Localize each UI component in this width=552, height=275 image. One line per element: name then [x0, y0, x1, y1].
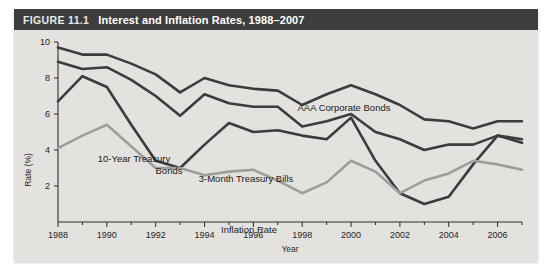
- figure-title-text: Interest and Inflation Rates, 1988–2007: [98, 14, 304, 26]
- series-annotation-0: AAA Corporate Bonds: [298, 102, 391, 113]
- series-line-10-year-treasury-bonds: [58, 62, 522, 150]
- x-tick-label: 2000: [341, 230, 361, 240]
- figure-root: FIGURE 11.1 Interest and Inflation Rates…: [0, 0, 552, 275]
- y-tick-label: 10: [40, 37, 50, 47]
- x-tick-label: 2006: [488, 230, 508, 240]
- figure-title-bar: FIGURE 11.1 Interest and Inflation Rates…: [14, 9, 538, 30]
- figure-number-label: FIGURE 11.1: [23, 14, 89, 26]
- x-axis-title: Year: [281, 244, 298, 254]
- series-annotation-2: Bonds: [156, 165, 183, 176]
- y-tick-label: 6: [45, 109, 50, 119]
- x-tick-label: 2004: [439, 230, 459, 240]
- x-axis-ticks: 1988199019921994199619982000200220042006: [48, 222, 522, 240]
- x-tick-label: 1988: [48, 230, 68, 240]
- x-tick-label: 1994: [195, 230, 215, 240]
- series-line-3-month-treasury-bills: [58, 76, 522, 204]
- y-axis-ticks: 246810: [40, 37, 58, 191]
- x-tick-label: 1990: [97, 230, 117, 240]
- line-chart-svg: Rate (%) 246810 198819901992199419961998…: [14, 30, 538, 262]
- chart-plot-area: Rate (%) 246810 198819901992199419961998…: [14, 30, 538, 262]
- series-annotation-4: Inflation Rate: [221, 224, 277, 235]
- y-tick-label: 4: [45, 145, 50, 155]
- x-tick-label: 2002: [390, 230, 410, 240]
- x-tick-label: 1998: [292, 230, 312, 240]
- series-annotation-3: 3-Month Treasury Bills: [199, 173, 294, 184]
- y-axis-title: Rate (%): [23, 153, 33, 187]
- figure-panel: FIGURE 11.1 Interest and Inflation Rates…: [14, 9, 538, 262]
- y-tick-label: 8: [45, 73, 50, 83]
- x-tick-label: 1992: [146, 230, 166, 240]
- y-tick-label: 2: [45, 181, 50, 191]
- series-annotation-1: 10-Year Treasury: [98, 153, 171, 164]
